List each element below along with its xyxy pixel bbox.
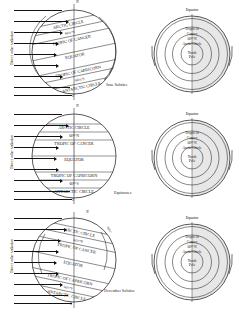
polar-label-tropic-cancer-2: Cancer [187, 240, 198, 244]
ray-arrow [14, 180, 62, 181]
panel-caption-june: June Solstice [106, 82, 128, 87]
night-shade [192, 10, 240, 100]
solar-ray-arrows-june [14, 6, 76, 98]
polar-label-arctic-lat: 66½°N [187, 141, 197, 145]
south-pole-marker: S [72, 94, 74, 98]
panel-caption-december: December Solstice [104, 288, 135, 293]
globe-side-view-equinox: Direct solar radiation [0, 104, 148, 208]
polar-view-december: Equator Tropic of Cancer 66½°N Arctic Ci… [144, 208, 240, 312]
ray-arrow [14, 136, 62, 137]
polar-label-tropic-cancer-2: Cancer [187, 136, 198, 140]
polar-label-tropic-cancer-2: Cancer [187, 32, 198, 36]
ray-arrow [14, 76, 62, 77]
ray-arrow [14, 240, 60, 241]
ray-arrow [14, 199, 72, 200]
globe-side-view-june: Direct solar radiation [0, 0, 148, 104]
south-pole-marker: S [70, 302, 72, 306]
polar-svg-equinox: Equator Tropic of Cancer 66½°N Arctic Ci… [144, 104, 240, 208]
ray-arrow [14, 284, 62, 285]
polar-label-equator: Equator [186, 7, 199, 12]
panel-equinoxes: Direct solar radiation [0, 104, 240, 208]
north-pole-marker: N [76, 104, 79, 108]
ray-arrow [14, 114, 62, 115]
ray-arrow [14, 169, 58, 170]
polar-label-arctic-lat: 66½°N [187, 37, 197, 41]
polar-label-tropic-cancer-1: Tropic of [185, 131, 199, 135]
ray-arrow [14, 262, 56, 263]
night-shade [192, 114, 240, 204]
solar-ray-arrows-equinox [14, 110, 76, 202]
panel-june-solstice: Direct solar radiation [0, 0, 240, 104]
panel-december-solstice: Direct solar radiation [0, 208, 240, 312]
ray-arrow [14, 65, 58, 66]
polar-svg-june: Equator Tropic of Cancer 66½°N Arctic Ci… [144, 0, 240, 104]
polar-label-north-pole-2: Pole [189, 263, 196, 267]
polar-label-north-pole-1: North [188, 155, 197, 159]
polar-label-north-pole-2: Pole [189, 55, 196, 59]
ray-arrow [14, 95, 72, 96]
ray-arrow [14, 10, 62, 11]
polar-view-equinox: Equator Tropic of Cancer 66½°N Arctic Ci… [144, 104, 240, 208]
north-pole-marker: N [86, 210, 89, 214]
polar-label-tropic-cancer-1: Tropic of [185, 27, 199, 31]
polar-label-arctic-circle: Arctic Circle [182, 250, 202, 254]
polar-label-equator: Equator [186, 215, 199, 220]
south-pole-marker: S [72, 198, 74, 202]
ray-arrow [14, 303, 72, 304]
ray-arrow [14, 32, 62, 33]
night-shade [192, 218, 240, 308]
ray-arrow [14, 218, 62, 219]
ray-arrow [14, 295, 68, 296]
ray-arrow [14, 251, 58, 252]
polar-label-north-pole-1: North [188, 51, 197, 55]
solar-ray-arrows-december [14, 214, 76, 306]
globe-side-view-december: Direct solar radiation [0, 208, 148, 312]
ray-arrow [14, 43, 58, 44]
polar-label-equator: Equator [186, 111, 199, 116]
polar-label-north-pole-2: Pole [189, 159, 196, 163]
ray-arrow [14, 229, 66, 230]
polar-svg-december: Equator Tropic of Cancer 66½°N Arctic Ci… [144, 208, 240, 312]
polar-label-arctic-lat: 66½°N [187, 245, 197, 249]
polar-view-june: Equator Tropic of Cancer 66½°N Arctic Ci… [144, 0, 240, 104]
ray-arrow [14, 21, 68, 22]
panel-caption-equinoxes: Equinoxes [114, 190, 131, 195]
ray-arrow [14, 191, 70, 192]
polar-label-tropic-cancer-1: Tropic of [185, 235, 199, 239]
ray-arrow [14, 87, 70, 88]
ray-arrow [14, 273, 58, 274]
figure-root: Direct solar radiation [0, 0, 240, 312]
ray-arrow [14, 147, 58, 148]
polar-label-arctic-circle: Arctic Circle [182, 146, 202, 150]
ray-arrow [14, 158, 56, 159]
north-pole-marker: N [76, 0, 79, 4]
polar-label-north-pole-1: North [188, 259, 197, 263]
ray-arrow [14, 54, 56, 55]
polar-label-arctic-circle: Arctic Circle [182, 42, 202, 46]
ray-arrow [14, 125, 68, 126]
